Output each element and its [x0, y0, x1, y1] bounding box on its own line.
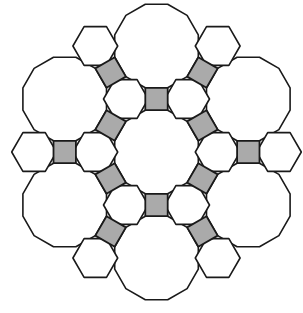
- dodecagon-upper-right: [207, 57, 291, 141]
- dodecagon-lower-right: [207, 163, 291, 247]
- dodecagon-center: [115, 110, 199, 194]
- dodecagon-upper-left: [23, 57, 107, 141]
- square-center-top: [145, 88, 167, 110]
- square-lower-left-upper-left: [54, 141, 76, 163]
- tiling-diagram: [0, 0, 303, 313]
- dodecagon-top: [115, 4, 199, 88]
- dodecagon-bottom: [115, 216, 199, 300]
- square-center-bottom: [145, 194, 167, 216]
- dodecagon-lower-left: [23, 163, 107, 247]
- square-upper-right-lower-right: [237, 141, 259, 163]
